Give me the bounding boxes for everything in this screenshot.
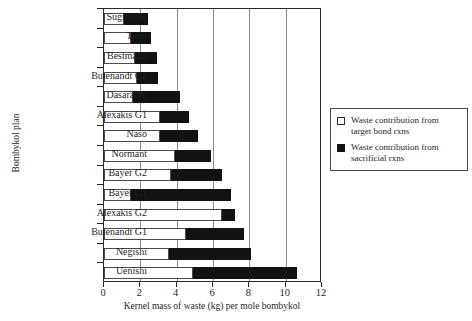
y-axis-tick-label: Suginome: [0, 11, 147, 22]
y-axis-tick-mark: [97, 184, 103, 185]
legend-swatch-filled-square-icon: [337, 144, 345, 152]
y-axis-tick-label: Bayer G2: [0, 167, 147, 178]
bar-segment-sacrificial: [169, 248, 251, 260]
y-axis-tick-mark: [97, 47, 103, 48]
y-axis-tick-label: Butenandt G2: [0, 70, 147, 81]
legend-swatch-open-square-icon: [337, 117, 345, 125]
x-axis-tick-label: 8: [233, 287, 263, 298]
x-axis-tick-label: 0: [88, 287, 118, 298]
y-axis-tick-label: Uenishi: [0, 265, 147, 276]
y-axis-tick-mark: [97, 86, 103, 87]
y-axis-tick-mark: [97, 8, 103, 9]
x-axis-title: Kernel mass of waste (kg) per mole bomby…: [103, 301, 321, 311]
chart-figure: Bombykol plan SuginomeTrostBestmannButen…: [0, 0, 472, 321]
bar-segment-sacrificial: [193, 267, 297, 279]
y-axis-tick-mark: [97, 145, 103, 146]
y-axis-tick-label: Normant: [0, 148, 147, 159]
bar-segment-sacrificial: [160, 111, 189, 123]
bar-segment-sacrificial: [171, 169, 222, 181]
y-axis-tick-mark: [97, 125, 103, 126]
bar-segment-sacrificial: [186, 228, 244, 240]
x-axis-tick-label: 4: [161, 287, 191, 298]
legend-label-line1: Waste contribution from: [351, 115, 439, 125]
chart-legend: Waste contribution from target bond rxns…: [330, 108, 468, 171]
y-axis-tick-label: Bestmann: [0, 50, 147, 61]
legend-label-sacrificial: Waste contribution from sacrificial rxns: [351, 142, 439, 164]
bar-segment-sacrificial: [175, 150, 211, 162]
y-axis-tick-label: Bayer G1: [0, 187, 147, 198]
y-axis-tick-label: Trost: [0, 30, 147, 41]
y-axis-tick-mark: [97, 28, 103, 29]
x-axis-tick-label: 2: [124, 287, 154, 298]
legend-label-line2: sacrificial rxns: [351, 153, 404, 163]
bar-segment-sacrificial: [160, 130, 198, 142]
x-axis-tick-label: 10: [270, 287, 300, 298]
legend-item-sacrificial: Waste contribution from sacrificial rxns: [337, 142, 461, 164]
y-axis-tick-mark: [97, 262, 103, 263]
x-axis-tick-label: 6: [197, 287, 227, 298]
legend-item-target-bond: Waste contribution from target bond rxns: [337, 115, 461, 137]
y-axis-tick-label: Alexakis G2: [0, 207, 147, 218]
y-axis-tick-mark: [97, 223, 103, 224]
y-axis-tick-mark: [97, 67, 103, 68]
y-axis-tick-mark: [97, 106, 103, 107]
legend-label-line1: Waste contribution from: [351, 142, 439, 152]
y-axis-tick-label: Negishi: [0, 246, 147, 257]
y-axis-tick-label: Alexakis G1: [0, 109, 147, 120]
y-axis-tick-mark: [97, 165, 103, 166]
y-axis-tick-mark: [97, 204, 103, 205]
legend-label-line2: target bond rxns: [351, 126, 409, 136]
y-axis-tick-mark: [97, 243, 103, 244]
y-axis-title: Bombykol plan: [11, 83, 21, 203]
bar-segment-sacrificial: [222, 209, 235, 221]
y-axis-tick-label: Dasaradhi: [0, 89, 147, 100]
y-axis-tick-label: Naso: [0, 128, 147, 139]
y-axis-tick-label: Butenandt G1: [0, 226, 147, 237]
legend-label-target-bond: Waste contribution from target bond rxns: [351, 115, 439, 137]
x-axis-tick-label: 12: [306, 287, 336, 298]
